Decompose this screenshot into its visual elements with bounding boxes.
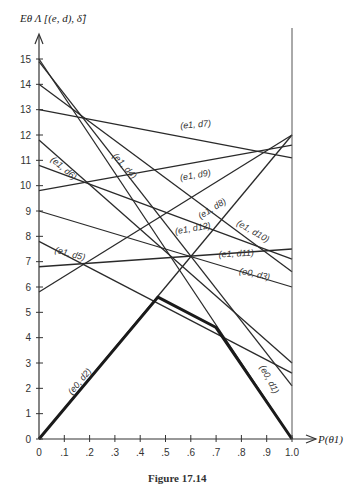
risk-line <box>39 165 292 259</box>
figure-caption: Figure 17.14 <box>148 472 207 484</box>
series-label: (e1, d9) <box>179 167 211 182</box>
x-tick-label: .2 <box>85 447 94 458</box>
y-tick-label: 1 <box>25 408 31 419</box>
series-label: (e1, d7) <box>180 118 212 131</box>
y-tick-label: 7 <box>25 256 31 267</box>
risk-line <box>39 62 292 386</box>
y-axis-title: Eθ Λ [(e, d), δ̂] <box>19 12 87 25</box>
risk-line <box>39 241 292 373</box>
envelope-line <box>39 297 292 439</box>
y-tick-label: 5 <box>25 307 31 318</box>
x-tick-label: .3 <box>111 447 120 458</box>
y-tick-label: 15 <box>20 54 32 65</box>
x-tick-label: .8 <box>237 447 246 458</box>
series-label: (e0, d3) <box>238 266 270 282</box>
x-tick-label: .9 <box>263 447 272 458</box>
x-axis-title: P(θ1) <box>317 433 343 446</box>
y-tick-label: 9 <box>25 206 31 217</box>
series-label: (e1, d11) <box>218 248 254 260</box>
y-tick-label: 8 <box>25 231 31 242</box>
y-tick-label: 4 <box>25 332 31 343</box>
x-tick-label: .5 <box>161 447 170 458</box>
bayes-risk-chart: 01234567891011121314150.1.2.3.4.5.6.7.8.… <box>0 0 361 493</box>
x-tick-label: .7 <box>212 447 221 458</box>
line-labels: (e1, d7)(e1, d9)(e1, d8)(e1, d6)(e1, d4)… <box>49 118 281 396</box>
risk-line <box>39 84 292 271</box>
y-tick-label: 12 <box>20 130 32 141</box>
series-label: (e1, d6) <box>49 154 79 182</box>
x-tick-label: .6 <box>187 447 196 458</box>
min-risk-envelope <box>39 297 292 439</box>
y-tick-label: 14 <box>20 79 32 90</box>
y-tick-label: 13 <box>20 104 32 115</box>
risk-line <box>39 145 292 191</box>
series-label: (e1, d12) <box>174 220 211 236</box>
y-tick-label: 6 <box>25 282 31 293</box>
y-tick-label: 0 <box>25 434 31 445</box>
y-tick-label: 11 <box>21 155 32 166</box>
y-tick-label: 2 <box>25 383 31 394</box>
x-tick-label: 1.0 <box>285 447 299 458</box>
series-label: (e1, d5) <box>54 245 87 263</box>
x-tick-label: .1 <box>60 447 69 458</box>
y-tick-label: 10 <box>20 180 32 191</box>
x-tick-label: .4 <box>136 447 145 458</box>
y-tick-label: 3 <box>25 358 31 369</box>
x-tick-label: 0 <box>36 447 42 458</box>
